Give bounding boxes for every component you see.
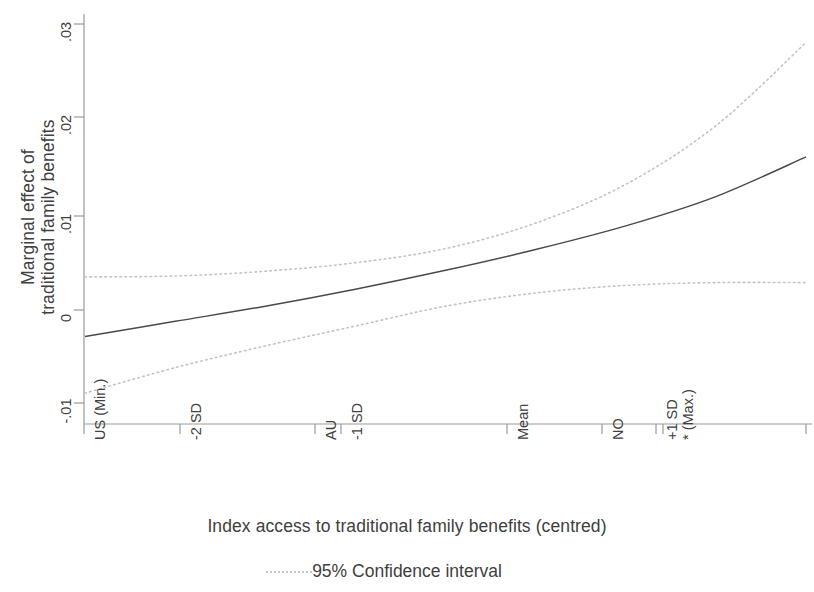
x-tick-label: NO [610, 418, 626, 440]
legend-ci-label: 95% Confidence interval [0, 561, 814, 582]
x-axis-title: Index access to traditional family benef… [0, 516, 814, 537]
y-axis-ticks [74, 24, 84, 403]
plot-canvas [0, 0, 814, 592]
marginal-effect-curve [85, 157, 806, 337]
x-tick-label: +1 SD [664, 399, 680, 440]
x-tick-label: -2 SD [188, 403, 204, 440]
ci-lower-curve [85, 282, 806, 393]
x-tick-label: * (Max.) [680, 389, 696, 440]
x-tick-label: -1 SD [349, 403, 365, 440]
ci-upper-curve [85, 43, 806, 277]
x-tick-label: AU [323, 420, 339, 440]
x-tick-label: US (Min.) [92, 379, 108, 440]
chart-figure: Marginal effect of traditional family be… [0, 0, 814, 592]
x-tick-label: Mean [515, 404, 531, 440]
